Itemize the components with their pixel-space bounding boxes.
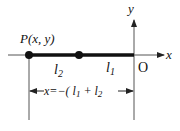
point-p-dot (25, 51, 33, 59)
junction-dot (75, 51, 83, 59)
diagram-canvas: y x O P(x, y) l2 l1 x=−( l1 + l2 (0, 0, 180, 131)
segment-l2-sub: 2 (58, 68, 63, 79)
dimension-formula: x=−( l1 + l2 (43, 84, 103, 99)
formula-plus: + (80, 84, 94, 98)
formula-l2-sub: 2 (98, 89, 103, 99)
origin-label: O (138, 60, 148, 75)
y-axis-label: y (126, 1, 134, 16)
segment-l1-label: l1 (106, 60, 115, 77)
x-axis-label: x (165, 47, 172, 62)
formula-prefix: x=−( (43, 84, 73, 98)
segment-l2-label: l2 (54, 62, 63, 79)
segment-l1-sub: 1 (110, 66, 115, 77)
point-p-label: P(x, y) (19, 31, 55, 46)
